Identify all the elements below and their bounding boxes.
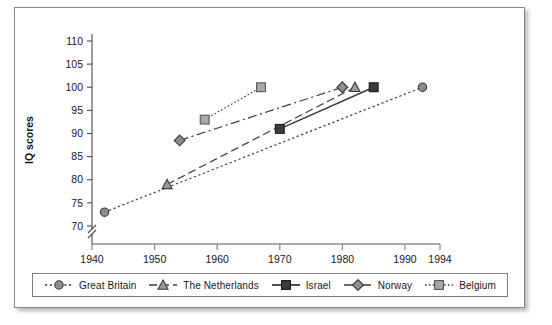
data-point-the-netherlands-1982 <box>350 82 360 91</box>
legend-item-great-britain[interactable]: Great Britain <box>44 279 136 291</box>
legend-item-israel[interactable]: Israel <box>271 279 331 291</box>
series-line-the-netherlands <box>167 87 355 184</box>
data-point-belgium-1967 <box>257 83 266 92</box>
svg-text:70: 70 <box>71 220 83 232</box>
legend-item-belgium[interactable]: Belgium <box>424 279 496 291</box>
svg-text:1970: 1970 <box>268 253 292 265</box>
y-axis-break-icon <box>88 219 96 244</box>
svg-text:85: 85 <box>71 150 83 162</box>
x-tick-labels: 1940195019601970198019901994 <box>80 253 452 265</box>
svg-text:1960: 1960 <box>206 253 230 265</box>
y-axis-title: IQ scores <box>23 116 35 164</box>
data-point-the-netherlands-1952 <box>162 179 172 188</box>
legend-key-square-filled-icon <box>271 279 301 291</box>
svg-text:1940: 1940 <box>80 253 104 265</box>
svg-text:1980: 1980 <box>331 253 355 265</box>
svg-text:105: 105 <box>65 58 83 70</box>
data-point-great-britain-1942 <box>100 208 108 216</box>
series-line-norway <box>180 87 343 140</box>
data-point-israel-1970 <box>275 124 284 133</box>
chart-svg: 110105100959085807570 194019501960197019… <box>15 8 526 266</box>
legend-item-the-netherlands[interactable]: The Netherlands <box>148 279 258 291</box>
legend-label: Israel <box>306 280 331 291</box>
svg-text:110: 110 <box>66 35 83 47</box>
legend-label: The Netherlands <box>183 280 258 291</box>
data-point-great-britain-1992 <box>418 83 426 91</box>
data-point-belgium-1958 <box>200 115 209 124</box>
svg-text:90: 90 <box>71 127 83 139</box>
legend-key-diamond-icon <box>343 279 373 291</box>
series-line-great-britain <box>105 87 423 212</box>
legend-key-circle-icon <box>44 279 74 291</box>
chart-figure: 110105100959085807570 194019501960197019… <box>14 7 525 308</box>
legend-key-square-light-icon <box>424 279 454 291</box>
legend-label: Great Britain <box>79 280 136 291</box>
svg-text:100: 100 <box>65 81 83 93</box>
plot-area: 110105100959085807570 194019501960197019… <box>15 8 526 266</box>
legend-row: Great BritainThe NetherlandsIsraelNorway… <box>33 274 507 296</box>
data-point-norway-1954 <box>174 135 185 146</box>
y-tick-labels: 110105100959085807570 <box>65 35 83 232</box>
series-line-israel <box>280 87 374 129</box>
x-tick-marks <box>92 244 440 250</box>
data-point-norway-1980 <box>337 82 348 93</box>
svg-text:1990: 1990 <box>393 253 417 265</box>
svg-text:75: 75 <box>71 197 83 209</box>
legend-item-norway[interactable]: Norway <box>343 279 413 291</box>
series-line-belgium <box>205 87 261 119</box>
svg-text:1950: 1950 <box>143 253 167 265</box>
data-point-israel-1985 <box>369 83 378 92</box>
svg-text:80: 80 <box>71 173 83 185</box>
legend-key-triangle-icon <box>148 279 178 291</box>
legend-label: Norway <box>378 280 413 291</box>
chart-legend: Great BritainThe NetherlandsIsraelNorway… <box>32 273 508 297</box>
y-tick-marks <box>87 41 92 226</box>
legend-label: Belgium <box>459 280 496 291</box>
svg-text:1994: 1994 <box>428 253 452 265</box>
series-lines <box>105 87 423 212</box>
svg-text:95: 95 <box>71 104 83 116</box>
series-markers <box>100 82 426 216</box>
